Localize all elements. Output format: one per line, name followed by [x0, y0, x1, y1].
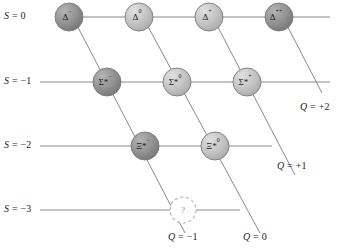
node-delta-zero-superscript: 0	[138, 8, 141, 14]
node-xi-star-minus[interactable]: Ξ*−	[131, 132, 159, 160]
diagonal-lines-group	[69, 10, 322, 233]
node-unknown-omega-label: ?	[181, 205, 185, 215]
charge-label-q-zero: Q = 0	[243, 231, 267, 242]
node-unknown-omega[interactable]: ?	[170, 197, 196, 223]
decuplet-diagram-canvas: Δ−Δ0Δ+Δ++Σ*−Σ*0Σ*+Ξ*−Ξ*0?	[0, 0, 355, 249]
charge-label-q-plus1: Q = +1	[277, 160, 307, 171]
charge-label-q-plus2: Q = +2	[300, 101, 330, 112]
horizontal-lines-group	[40, 17, 330, 210]
node-delta-zero[interactable]: Δ0	[125, 3, 153, 31]
diag-q-zero	[139, 10, 260, 233]
strangeness-label-s-m3: S = −3	[4, 203, 31, 214]
node-sigma-star-plus-base: Σ*	[238, 77, 248, 87]
node-delta-plus[interactable]: Δ+	[195, 3, 223, 31]
node-xi-star-zero[interactable]: Ξ*0	[201, 132, 229, 160]
node-xi-star-zero-superscript: 0	[217, 137, 220, 143]
node-xi-star-minus-base: Ξ*	[136, 141, 147, 151]
node-delta-plusplus-superscript: ++	[276, 8, 283, 14]
node-sigma-star-zero[interactable]: Σ*0	[163, 68, 191, 96]
particle-nodes-group: Δ−Δ0Δ+Δ++Σ*−Σ*0Σ*+Ξ*−Ξ*0?	[55, 3, 293, 223]
node-sigma-star-minus[interactable]: Σ*−	[93, 68, 121, 96]
baryon-decuplet-figure: Δ−Δ0Δ+Δ++Σ*−Σ*0Σ*+Ξ*−Ξ*0? S = 0S = −1S =…	[0, 0, 355, 249]
node-delta-plusplus[interactable]: Δ++	[265, 3, 293, 31]
node-delta-minus[interactable]: Δ−	[55, 3, 83, 31]
diag-q-minus1	[69, 10, 185, 233]
strangeness-label-s-m1: S = −1	[4, 75, 31, 86]
node-xi-star-zero-base: Ξ*	[206, 141, 217, 151]
strangeness-label-s-0: S = 0	[4, 10, 26, 21]
node-sigma-star-zero-superscript: 0	[178, 73, 181, 79]
node-sigma-star-minus-base: Σ*	[98, 77, 108, 87]
node-sigma-star-zero-base: Σ*	[169, 77, 179, 87]
charge-label-q-minus1: Q = −1	[168, 231, 198, 242]
strangeness-label-s-m2: S = −2	[4, 139, 31, 150]
node-sigma-star-plus[interactable]: Σ*+	[233, 68, 261, 96]
